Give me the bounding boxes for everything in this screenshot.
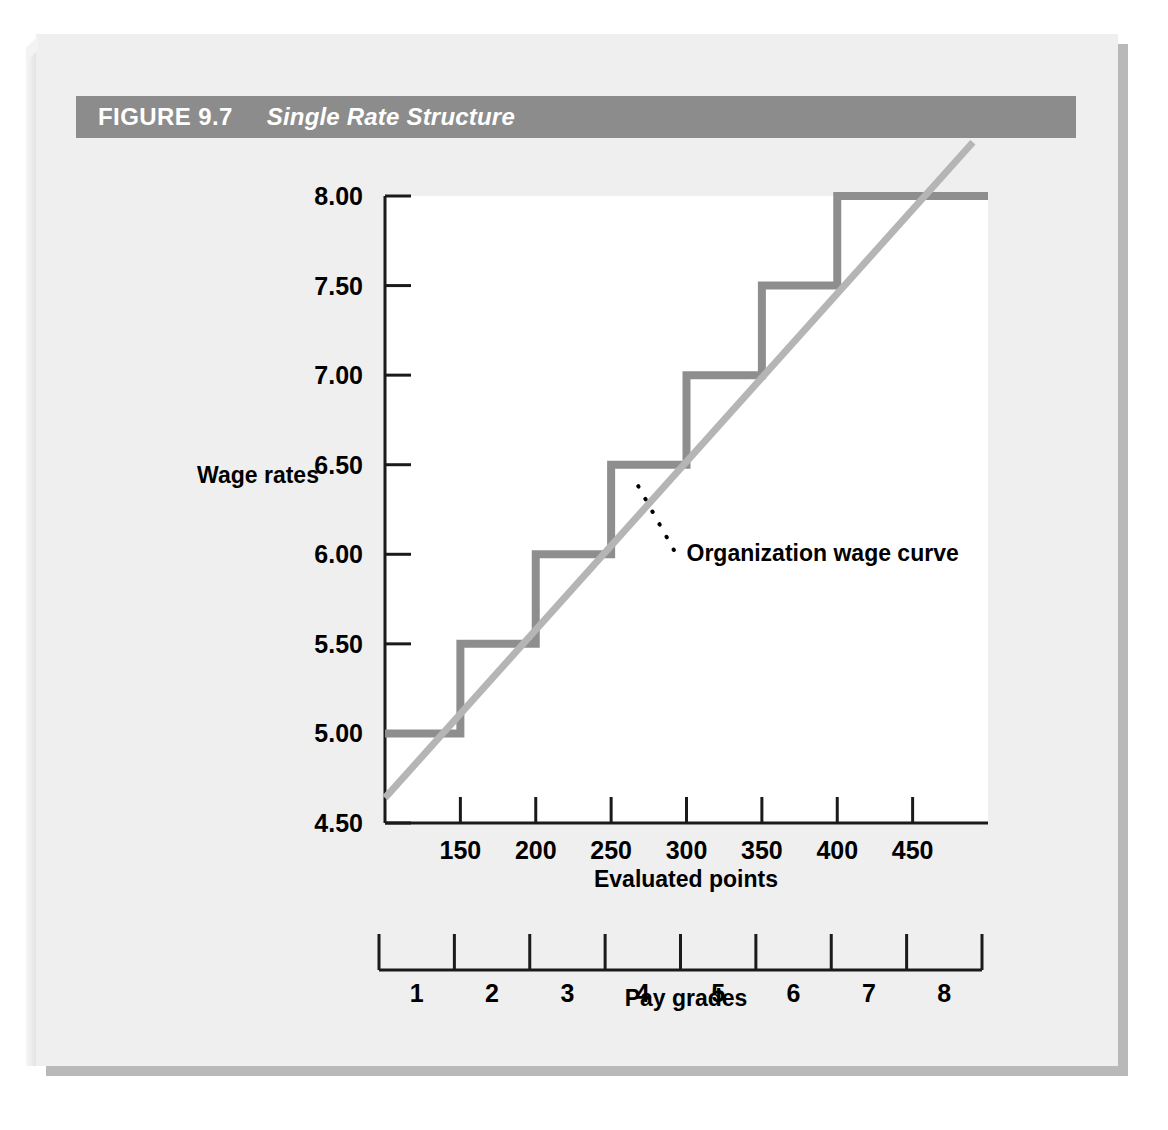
figure-page: FIGURE 9.7 Single Rate Structure 4.505.0… bbox=[36, 34, 1118, 1066]
x-axis-title: Evaluated points bbox=[594, 866, 778, 892]
pay-grade-label: 7 bbox=[862, 979, 876, 1007]
x-tick-label: 300 bbox=[666, 836, 708, 864]
pay-grade-label: 2 bbox=[485, 979, 499, 1007]
chart-svg: 4.505.005.506.006.507.007.508.00 1502002… bbox=[36, 34, 1118, 1066]
y-tick-label: 7.50 bbox=[314, 272, 363, 300]
x-tick-label: 350 bbox=[741, 836, 783, 864]
pay-grade-label: 1 bbox=[410, 979, 424, 1007]
y-tick-label: 6.50 bbox=[314, 451, 363, 479]
x-tick-label: 250 bbox=[590, 836, 632, 864]
y-tick-label: 7.00 bbox=[314, 361, 363, 389]
y-tick-label: 4.50 bbox=[314, 809, 363, 837]
y-axis-title: Wage rates bbox=[197, 462, 319, 488]
x-tick-label: 400 bbox=[816, 836, 858, 864]
plot-background bbox=[385, 196, 988, 823]
pay-grades-title: Pay grades bbox=[625, 985, 748, 1011]
pay-grade-label: 6 bbox=[787, 979, 801, 1007]
pay-grade-label: 3 bbox=[560, 979, 574, 1007]
pay-grade-label: 8 bbox=[937, 979, 951, 1007]
x-tick-label: 450 bbox=[892, 836, 934, 864]
x-tick-label: 200 bbox=[515, 836, 557, 864]
y-tick-label: 6.00 bbox=[314, 540, 363, 568]
annotation-label: Organization wage curve bbox=[687, 540, 959, 566]
x-tick-label: 150 bbox=[440, 836, 482, 864]
y-tick-label: 5.50 bbox=[314, 630, 363, 658]
y-tick-label: 8.00 bbox=[314, 182, 363, 210]
y-tick-label: 5.00 bbox=[314, 719, 363, 747]
